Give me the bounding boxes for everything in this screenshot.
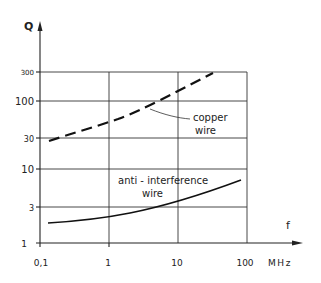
x-axis-arrow-icon xyxy=(292,241,303,246)
y-tick: 10 xyxy=(21,164,34,175)
copper-leader-line xyxy=(150,109,190,119)
x-tick: 100 xyxy=(236,258,253,268)
anti-interference-label-line2: wire xyxy=(142,188,163,199)
anti-interference-label-line1: anti - interference xyxy=(118,175,208,186)
x-tick: 1 xyxy=(105,258,111,268)
y-axis-label: Q xyxy=(24,20,33,33)
copper-wire-label-line2: wire xyxy=(195,125,216,136)
grid xyxy=(40,72,247,243)
y-tick: 30 xyxy=(24,135,34,144)
copper-wire-label-line1: copper xyxy=(193,112,228,123)
y-tick: 1 xyxy=(21,239,27,249)
y-tick: 300 xyxy=(21,69,34,77)
x-unit-label: MHz xyxy=(268,258,292,268)
x-axis-label: f xyxy=(286,219,291,232)
chart: Q f MHz 300 100 30 10 3 1 0,1 1 10 100 c… xyxy=(0,0,321,283)
axes xyxy=(36,30,296,247)
y-tick: 3 xyxy=(29,204,34,213)
x-tick: 0,1 xyxy=(34,258,48,268)
y-axis-arrow-icon xyxy=(38,21,43,31)
anti-interference-wire-curve xyxy=(48,180,241,223)
y-tick: 100 xyxy=(15,96,34,107)
x-tick: 10 xyxy=(171,258,183,268)
copper-wire-curve xyxy=(49,73,213,141)
